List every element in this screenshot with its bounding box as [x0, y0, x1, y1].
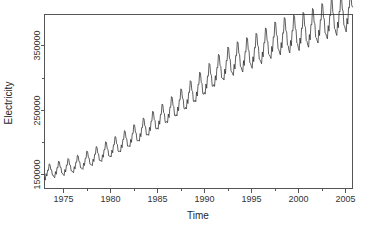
y-axis-tick-labels: 150000250000350000: [32, 30, 42, 189]
x-tick-label: 1995: [241, 194, 261, 204]
x-tick-label: 1990: [194, 194, 214, 204]
y-tick-label: 250000: [32, 95, 42, 125]
x-tick-label: 1980: [100, 194, 120, 204]
x-axis-title: Time: [187, 210, 209, 221]
y-tick-label: 150000: [32, 159, 42, 189]
x-tick-label: 2000: [288, 194, 308, 204]
electricity-time-series-plot: 150000250000350000 197519801985199019952…: [0, 0, 370, 235]
chart-figure: 150000250000350000 197519801985199019952…: [0, 0, 370, 235]
y-tick-label: 350000: [32, 30, 42, 60]
x-tick-label: 1985: [147, 194, 167, 204]
y-axis-title: Electricity: [3, 82, 14, 125]
x-tick-label: 1975: [53, 194, 73, 204]
x-tick-label: 2005: [335, 194, 355, 204]
